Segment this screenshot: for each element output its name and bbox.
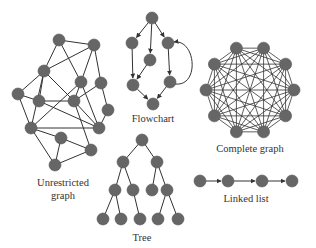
node [286, 175, 298, 187]
flowchart-graph [126, 12, 192, 110]
node [49, 159, 61, 171]
node [117, 156, 129, 168]
node [200, 84, 212, 96]
node [172, 213, 184, 225]
node [93, 122, 105, 134]
edge [150, 24, 151, 53]
node [288, 84, 300, 96]
node [53, 34, 65, 46]
node [194, 175, 206, 187]
edge [44, 71, 74, 101]
node [258, 42, 270, 54]
linked-list-label: Linked list [223, 192, 268, 205]
edge [174, 42, 192, 84]
node [95, 77, 107, 89]
node [146, 184, 158, 196]
node [164, 76, 176, 88]
node [109, 184, 121, 196]
unrestricted-graph [12, 34, 114, 171]
node [126, 37, 138, 49]
edge [136, 23, 148, 38]
node [102, 104, 114, 116]
node [161, 184, 173, 196]
node [136, 134, 148, 146]
node [134, 213, 146, 225]
node [147, 98, 159, 110]
tree-label: Tree [133, 231, 152, 244]
node [151, 156, 163, 168]
node [68, 95, 80, 107]
node [88, 39, 100, 51]
node [280, 110, 292, 122]
edge [137, 89, 148, 99]
node [146, 12, 158, 24]
node [162, 37, 174, 49]
edge [137, 65, 147, 79]
node [280, 58, 292, 70]
node [222, 175, 234, 187]
node [12, 88, 24, 100]
node [97, 213, 109, 225]
complete-graph-label: Complete graph [216, 142, 283, 155]
edge [214, 48, 236, 116]
node [230, 126, 242, 138]
node [127, 79, 139, 91]
node [152, 213, 164, 225]
edge [74, 101, 91, 150]
node [127, 184, 139, 196]
label-line-1: Unrestricted [37, 176, 89, 189]
node [258, 126, 270, 138]
node [208, 110, 220, 122]
node [38, 65, 50, 77]
node [55, 132, 67, 144]
flowchart-label: Flowchart [132, 112, 175, 125]
linked-list-graph [194, 175, 298, 187]
edge [31, 128, 55, 165]
edge [132, 49, 133, 78]
edge [157, 87, 166, 99]
complete-graph [200, 42, 300, 138]
edge [155, 23, 164, 37]
edge [168, 49, 169, 75]
node [208, 58, 220, 70]
node [25, 122, 37, 134]
node [85, 144, 97, 156]
node [75, 76, 87, 88]
label-line-2: graph [37, 189, 89, 202]
node [256, 175, 268, 187]
node [33, 95, 45, 107]
node [144, 54, 156, 66]
tree-graph [97, 134, 184, 225]
node [115, 213, 127, 225]
unrestricted-graph-label: Unrestricted graph [37, 176, 89, 202]
node [230, 42, 242, 54]
